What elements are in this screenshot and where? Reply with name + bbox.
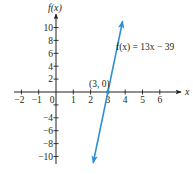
line-graph: −2−10123456 −10−8−6−4246810 f(x) x (3, 0… bbox=[0, 0, 193, 174]
x-tick-label: 4 bbox=[123, 95, 128, 105]
y-tick-label: 10 bbox=[44, 23, 54, 33]
x-tick-label: −2 bbox=[14, 95, 24, 105]
x-tick-label: 6 bbox=[157, 95, 162, 105]
equation-label: f(x) = 13x − 39 bbox=[116, 42, 174, 53]
y-tick-label: 4 bbox=[48, 62, 53, 72]
y-tick-label: 8 bbox=[48, 36, 53, 46]
x-tick-label: 2 bbox=[88, 95, 93, 105]
point-label: (3, 0) bbox=[89, 79, 110, 90]
y-axis-title: f(x) bbox=[48, 2, 63, 14]
x-intercept-point bbox=[106, 90, 110, 94]
y-tick-label: −8 bbox=[43, 139, 53, 149]
y-tick-label: −6 bbox=[43, 126, 53, 136]
x-tick-label: 5 bbox=[140, 95, 145, 105]
y-tick-label: 6 bbox=[48, 49, 53, 59]
x-tick-label: −1 bbox=[32, 95, 42, 105]
y-tick-label: −4 bbox=[43, 113, 53, 123]
y-tick-label: −10 bbox=[38, 152, 53, 162]
x-tick-label: 0 bbox=[50, 95, 55, 105]
x-tick-label: 1 bbox=[71, 95, 76, 105]
x-axis-title: x bbox=[184, 86, 190, 97]
y-tick-label: 2 bbox=[48, 74, 53, 84]
